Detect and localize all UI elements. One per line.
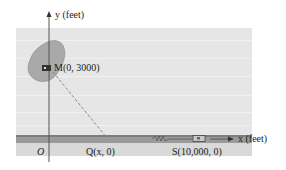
diagram-overlay xyxy=(0,0,286,170)
point-s-label: S(10,000, 0) xyxy=(172,146,222,157)
dashed-path-line xyxy=(53,72,107,138)
house-icon xyxy=(42,65,51,71)
origin-label: O xyxy=(37,146,44,157)
station-detail xyxy=(197,137,200,140)
x-axis-label: x (feet) xyxy=(238,133,267,144)
y-axis-arrow-icon xyxy=(47,11,52,17)
x-axis-arrow-icon xyxy=(228,137,234,142)
power-line-zigzag xyxy=(152,136,192,141)
point-m-label: M(0, 3000) xyxy=(54,62,100,73)
house-window xyxy=(44,67,46,69)
y-axis-label: y (feet) xyxy=(55,9,84,20)
point-q-label: Q(x, 0) xyxy=(86,146,115,157)
